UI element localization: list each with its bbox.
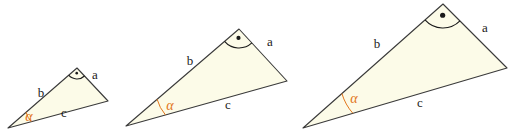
- medium-triangle-label-a: a: [267, 34, 273, 49]
- small-triangle: abcα: [8, 67, 108, 128]
- small-triangle-label-alpha: α: [25, 109, 33, 124]
- large-triangle: abcα: [303, 4, 507, 128]
- large-triangle-label-b: b: [374, 36, 381, 51]
- medium-triangle-body: [126, 29, 287, 126]
- large-triangle-label-alpha: α: [350, 91, 358, 106]
- medium-triangle-label-c: c: [225, 97, 231, 112]
- small-triangle-right-angle-dot: [75, 72, 78, 75]
- large-triangle-label-a: a: [482, 20, 488, 35]
- medium-triangle: abcα: [126, 29, 287, 126]
- small-triangle-label-a: a: [92, 67, 98, 82]
- small-triangle-label-c: c: [61, 105, 67, 120]
- triangles-canvas: abcαabcαabcα: [0, 0, 518, 135]
- large-triangle-body: [303, 4, 507, 128]
- small-triangle-label-b: b: [38, 85, 45, 100]
- large-triangle-right-angle-dot: [440, 13, 445, 18]
- medium-triangle-label-alpha: α: [166, 98, 174, 113]
- medium-triangle-label-b: b: [187, 53, 194, 68]
- large-triangle-label-c: c: [417, 95, 423, 110]
- similar-triangles-figure: abcαabcαabcα: [0, 0, 518, 135]
- medium-triangle-right-angle-dot: [236, 36, 240, 40]
